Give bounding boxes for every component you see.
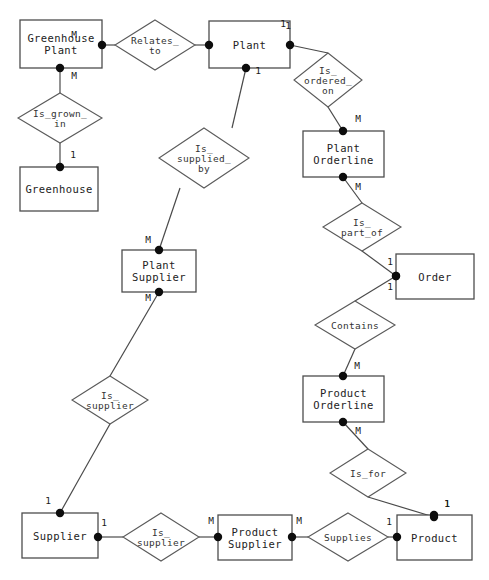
connection-dot [56, 163, 64, 171]
connection-dot [286, 41, 294, 49]
cardinality-label: 1 [387, 256, 393, 267]
entity-label: Orderline [313, 399, 374, 411]
entity-label: Product [411, 532, 458, 544]
cardinality-label: 1 [285, 20, 291, 31]
connection-dot [242, 64, 250, 72]
cardinality-label: 1 [387, 281, 393, 292]
connection-dot [339, 418, 347, 426]
cardinalities-layer: M1M11M1MM11MM1M11MM11 [45, 18, 450, 528]
entity-label: Supplier [33, 530, 87, 542]
connection-dot [430, 511, 438, 519]
relationship-label: Is_for [350, 468, 386, 479]
connection-line [60, 424, 110, 513]
cardinality-label: 1 [45, 495, 51, 506]
entity-label: Plant [233, 39, 267, 51]
connection-line [232, 68, 246, 128]
entity-label: Product [320, 387, 367, 399]
connection-dot [288, 533, 296, 541]
cardinality-label: 1 [386, 516, 392, 527]
connection-line [159, 188, 180, 250]
entity-label: Plant [142, 259, 176, 271]
relationship-label: by [198, 163, 210, 174]
relationship-label: Supplies [324, 532, 372, 543]
connection-dot [393, 533, 401, 541]
entity-label: Order [418, 271, 452, 283]
relationship-label: on [322, 85, 334, 96]
cardinality-label: M [355, 113, 361, 124]
entities-layer: GreenhousePlantPlantGreenhousePlantOrder… [20, 20, 474, 560]
cardinality-label: M [354, 360, 360, 371]
connection-line [368, 497, 434, 517]
connection-line [328, 107, 343, 131]
relationship-label: in [54, 118, 66, 129]
connection-dot [56, 509, 64, 517]
connection-dot [94, 533, 102, 541]
entity-label: Orderline [313, 154, 374, 166]
cardinality-label: M [355, 425, 361, 436]
connection-dot [339, 127, 347, 135]
er-diagram-canvas: Relates_toIs_grown_inIs_supplied_byIs_or… [0, 0, 489, 580]
cardinality-label: 1 [255, 65, 261, 76]
entity-label: Product [231, 526, 278, 538]
cardinality-label: 1 [444, 498, 450, 509]
connection-dot [214, 533, 222, 541]
er-diagram-svg: Relates_toIs_grown_inIs_supplied_byIs_or… [0, 0, 489, 580]
connection-dot [339, 173, 347, 181]
connection-dot [205, 41, 213, 49]
connection-dot [392, 272, 400, 280]
cardinality-label: M [145, 234, 151, 245]
cardinality-label: 1 [70, 149, 76, 160]
relationship-label: to [149, 45, 161, 56]
entity-label: Supplier [228, 538, 282, 550]
cardinality-label: M [208, 515, 214, 526]
relationship-label: Contains [331, 320, 379, 331]
entity-label: Greenhouse [27, 32, 94, 44]
connection-line [290, 45, 328, 53]
entity-label: Greenhouse [25, 183, 92, 195]
connection-line [110, 292, 159, 376]
relationship-label: part_of [341, 227, 383, 238]
cardinality-label: 1 [101, 517, 107, 528]
cardinality-label: M [296, 515, 302, 526]
relationship-label: supplier [86, 400, 134, 411]
entity-label: Plant [44, 44, 78, 56]
connection-dot [339, 372, 347, 380]
relationships-layer: Relates_toIs_grown_inIs_supplied_byIs_or… [18, 20, 406, 561]
entity-label: Supplier [132, 271, 186, 283]
connection-dot [98, 41, 106, 49]
relationship-label: supplier [137, 537, 185, 548]
cardinality-label: M [355, 181, 361, 192]
cardinality-label: M [71, 70, 77, 81]
connection-dot [56, 64, 64, 72]
connection-dot [155, 246, 163, 254]
connection-dot [155, 288, 163, 296]
cardinality-label: M [145, 292, 151, 303]
cardinality-label: M [71, 29, 77, 40]
entity-label: Plant [327, 142, 361, 154]
